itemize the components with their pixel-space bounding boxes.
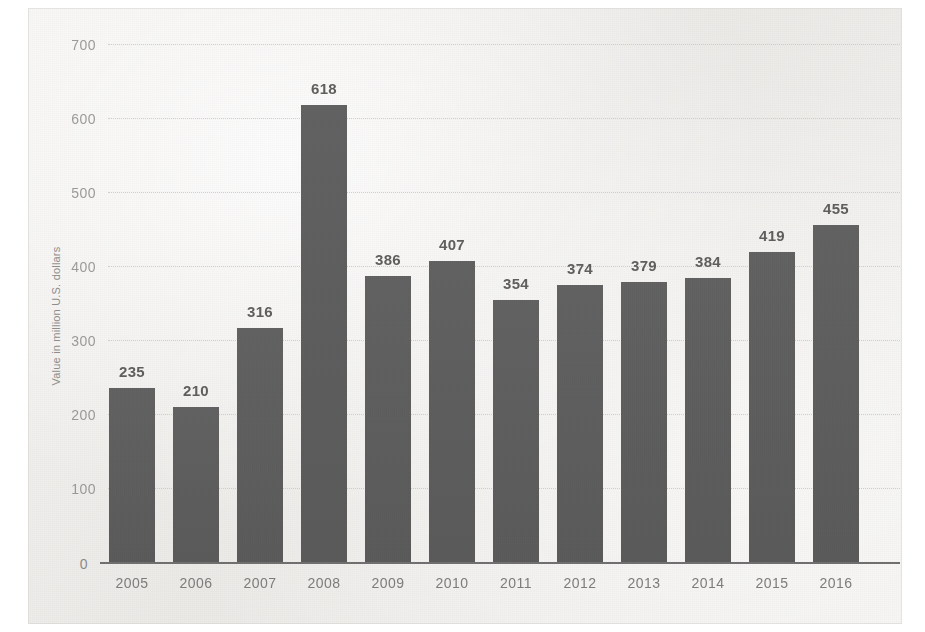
bar-value-label: 374 (548, 260, 612, 277)
bar-group: 3862009 (356, 44, 420, 562)
x-axis-tick-label: 2006 (164, 575, 228, 591)
bar-value-label: 210 (164, 382, 228, 399)
x-axis-tick-label: 2011 (484, 575, 548, 591)
bar-value-label: 384 (676, 253, 740, 270)
bar[interactable] (109, 388, 155, 562)
x-axis-tick-label: 2016 (804, 575, 868, 591)
x-axis-tick-label: 2007 (228, 575, 292, 591)
x-axis-line: 0 (100, 562, 900, 564)
y-axis-tick-label: 0 (80, 556, 88, 572)
bar[interactable] (301, 105, 347, 562)
x-axis-tick-label: 2015 (740, 575, 804, 591)
x-axis-tick-label: 2010 (420, 575, 484, 591)
bar-group: 3542011 (484, 44, 548, 562)
bar[interactable] (429, 261, 475, 562)
chart-screenshot: Value in million U.S. dollars 0100200300… (0, 0, 925, 632)
y-axis-tick-label: 700 (71, 37, 96, 53)
bar-group: 3742012 (548, 44, 612, 562)
bar-value-label: 419 (740, 227, 804, 244)
bar[interactable] (621, 282, 667, 562)
bar[interactable] (685, 278, 731, 562)
y-axis-tick-label: 400 (71, 259, 96, 275)
bar-value-label: 407 (420, 236, 484, 253)
y-axis-tick-label: 500 (71, 185, 96, 201)
x-axis-tick-label: 2008 (292, 575, 356, 591)
bar-group: 4192015 (740, 44, 804, 562)
bar-group: 3842014 (676, 44, 740, 562)
bars-group: 2352005210200631620076182008386200940720… (100, 44, 900, 562)
y-axis-tick-label: 200 (71, 407, 96, 423)
y-axis-tick-label: 600 (71, 111, 96, 127)
bar-group: 3792013 (612, 44, 676, 562)
bar[interactable] (557, 285, 603, 562)
bar-group: 3162007 (228, 44, 292, 562)
bar-value-label: 386 (356, 251, 420, 268)
bar-group: 2352005 (100, 44, 164, 562)
x-axis-tick-label: 2009 (356, 575, 420, 591)
y-axis-title: Value in million U.S. dollars (50, 247, 62, 386)
bar[interactable] (813, 225, 859, 562)
x-axis-tick-label: 2012 (548, 575, 612, 591)
bar-group: 2102006 (164, 44, 228, 562)
plot-area: 0100200300400500600700 23520052102006316… (100, 44, 900, 562)
y-axis-tick-label: 300 (71, 333, 96, 349)
bar-value-label: 618 (292, 80, 356, 97)
bar-value-label: 354 (484, 275, 548, 292)
bar[interactable] (365, 276, 411, 562)
bar[interactable] (749, 252, 795, 562)
bar-group: 4072010 (420, 44, 484, 562)
bar[interactable] (493, 300, 539, 562)
bar[interactable] (173, 407, 219, 562)
x-axis-tick-label: 2005 (100, 575, 164, 591)
bar[interactable] (237, 328, 283, 562)
bar-group: 6182008 (292, 44, 356, 562)
x-axis-tick-label: 2013 (612, 575, 676, 591)
x-axis-tick-label: 2014 (676, 575, 740, 591)
bar-value-label: 455 (804, 200, 868, 217)
bar-value-label: 379 (612, 257, 676, 274)
bar-value-label: 235 (100, 363, 164, 380)
bar-value-label: 316 (228, 303, 292, 320)
bar-group: 4552016 (804, 44, 868, 562)
y-axis-tick-label: 100 (71, 481, 96, 497)
